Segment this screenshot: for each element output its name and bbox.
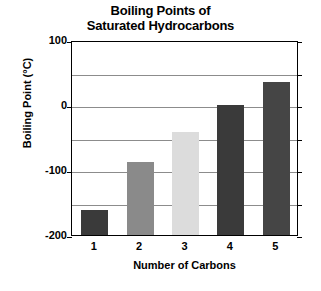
y-axis-tick-mark: [297, 237, 302, 238]
y-axis-tick-label: 0: [27, 100, 67, 111]
x-axis-tick-label: 1: [74, 240, 114, 253]
bar: [217, 105, 244, 235]
plot-area: [71, 41, 298, 236]
y-axis-minor-tick-mark: [297, 140, 302, 141]
x-axis-tick-label: 3: [165, 240, 205, 253]
x-axis-title: Number of Carbons: [71, 259, 298, 271]
y-axis-minor-tick-mark: [297, 75, 302, 76]
y-axis-tick-mark: [297, 42, 302, 43]
bar: [81, 210, 108, 235]
y-axis-minor-tick-mark: [297, 172, 302, 173]
y-axis-tick-label: 100: [27, 35, 67, 46]
x-axis-tick-label: 5: [255, 240, 295, 253]
y-axis-tick-label: -200: [27, 230, 67, 241]
bar: [127, 162, 154, 235]
bar: [263, 82, 290, 235]
y-axis-minor-tick-mark: [297, 107, 302, 108]
y-axis-tick-label: -100: [27, 165, 67, 176]
bar: [172, 132, 199, 235]
y-axis-minor-tick-mark: [297, 205, 302, 206]
x-axis-tick-label: 4: [210, 240, 250, 253]
x-axis-tick-labels: 12345: [71, 240, 298, 256]
chart-page: Boiling Points of Saturated Hydrocarbons…: [0, 0, 321, 291]
x-axis-tick-label: 2: [119, 240, 159, 253]
y-axis-tick-labels: 1000-100-200: [23, 0, 67, 291]
bar-series: [72, 42, 297, 235]
y-axis-tick-mark: [67, 237, 72, 238]
